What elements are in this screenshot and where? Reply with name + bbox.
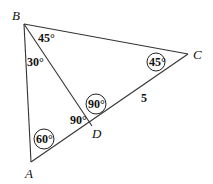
- angle-CBD-label: 45°: [38, 31, 55, 45]
- angle-BCA-label: 45°: [149, 55, 166, 69]
- angle-BDA-label: 90°: [70, 113, 87, 127]
- vertex-label-C: C: [193, 47, 202, 62]
- segment-BD: [24, 24, 92, 126]
- angle-BAC-label: 60°: [36, 132, 53, 146]
- vertex-label-A: A: [24, 166, 33, 181]
- vertex-label-D: D: [91, 126, 102, 141]
- side-DC-label: 5: [141, 91, 147, 105]
- angle-BDC-label: 90°: [88, 97, 105, 111]
- angle-ABD-label: 30°: [27, 55, 44, 69]
- triangle-diagram: B C A D 45° 30° 45° 90° 90° 5 60°: [0, 0, 213, 184]
- vertex-label-B: B: [12, 8, 20, 23]
- side-AB: [24, 24, 31, 162]
